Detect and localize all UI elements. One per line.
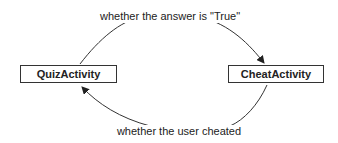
edge-quiz-to-cheat-arrow [80, 17, 264, 64]
node-quiz-activity: QuizActivity [20, 65, 117, 83]
node-cheat-activity-label: CheatActivity [241, 68, 311, 80]
node-quiz-activity-label: QuizActivity [37, 68, 101, 80]
edge-label-user-cheated: whether the user cheated [116, 125, 242, 138]
edge-cheat-to-quiz-arrow [82, 85, 267, 126]
node-cheat-activity: CheatActivity [228, 65, 324, 83]
edge-label-answer-is-true: whether the answer is "True" [99, 10, 241, 23]
